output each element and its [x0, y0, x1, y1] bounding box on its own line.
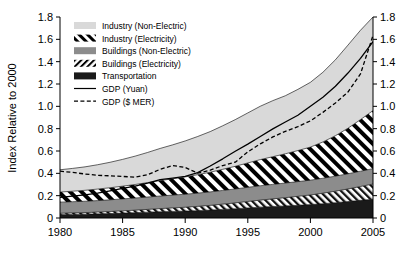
y-tick-label-right: 1.2 [380, 78, 395, 90]
legend-swatch-solid-light-gray [74, 22, 96, 29]
legend-label: Transportation [102, 71, 157, 81]
y-axis-title: Index Relative to 2000 [6, 63, 18, 172]
y-tick-label-left: 1.0 [38, 100, 53, 112]
y-tick-label-left: 1.6 [38, 33, 53, 45]
y-tick-label-left: 1.4 [38, 56, 53, 68]
y-tick-label-right: 1.0 [380, 100, 395, 112]
x-tick-label: 1985 [110, 226, 134, 238]
y-tick-label-right: 1.6 [380, 33, 395, 45]
y-tick-label-right: 1.4 [380, 56, 395, 68]
legend-label: GDP ($ MER) [102, 97, 154, 107]
x-tick-label: 1980 [48, 226, 72, 238]
y-tick-label-right: 0.4 [380, 167, 395, 179]
y-tick-label-right: 0.8 [380, 123, 395, 135]
x-tick-label: 2000 [298, 226, 322, 238]
legend-swatch-hatch-thin-diagonal [74, 60, 96, 67]
legend-label: Industry (Non-Electric) [102, 21, 187, 31]
y-tick-label-right: 0 [380, 212, 386, 224]
x-tick-label: 1995 [236, 226, 260, 238]
y-tick-label-left: 1.2 [38, 78, 53, 90]
x-tick-label: 2005 [361, 226, 385, 238]
legend-label: GDP (Yuan) [102, 84, 148, 94]
chart-figure: 000.20.20.40.40.60.60.80.81.01.01.21.21.… [0, 0, 409, 253]
y-tick-label-left: 0.8 [38, 123, 53, 135]
legend-label: Buildings (Electricity) [102, 59, 181, 69]
y-tick-label-left: 1.8 [38, 11, 53, 23]
x-tick-label: 1990 [173, 226, 197, 238]
legend-swatch-solid-black [74, 72, 96, 79]
y-tick-label-right: 0.2 [380, 190, 395, 202]
y-tick-label-left: 0.6 [38, 145, 53, 157]
y-tick-label-left: 0.4 [38, 167, 53, 179]
legend-label: Industry (Electricity) [102, 34, 177, 44]
energy-index-stacked-area-chart: 000.20.20.40.40.60.60.80.81.01.01.21.21.… [0, 0, 409, 253]
legend-label: Buildings (Non-Electric) [102, 46, 191, 56]
y-tick-label-left: 0 [47, 212, 53, 224]
legend-swatch-solid-mid-gray [74, 47, 96, 54]
y-tick-label-left: 0.2 [38, 190, 53, 202]
legend-swatch-hatch-bold-diagonal [74, 35, 96, 42]
y-tick-label-right: 1.8 [380, 11, 395, 23]
y-tick-label-right: 0.6 [380, 145, 395, 157]
